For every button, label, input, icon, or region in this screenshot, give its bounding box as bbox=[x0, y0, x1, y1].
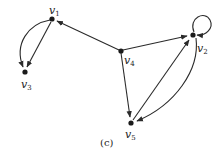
edge-v4-v1 bbox=[57, 21, 119, 50]
node-v4 bbox=[118, 48, 123, 53]
label-v5: v5 bbox=[125, 128, 136, 142]
edge-v1-v3-curved bbox=[20, 20, 50, 67]
node-v3 bbox=[22, 69, 27, 74]
node-v5 bbox=[128, 120, 133, 125]
edge-v4-v2 bbox=[123, 36, 187, 50]
label-v1: v1 bbox=[49, 4, 60, 18]
label-v3: v3 bbox=[21, 78, 32, 92]
node-v2 bbox=[190, 32, 195, 37]
label-v2: v2 bbox=[197, 42, 208, 56]
edge-v2-v5-curved bbox=[137, 38, 196, 121]
edge-v2-self-loop bbox=[193, 16, 211, 36]
label-v4: v4 bbox=[124, 54, 135, 68]
directed-graph: v1 v2 v3 v4 v5 (c) bbox=[0, 0, 222, 148]
node-v1 bbox=[49, 16, 54, 21]
figure-caption: (c) bbox=[100, 137, 114, 148]
